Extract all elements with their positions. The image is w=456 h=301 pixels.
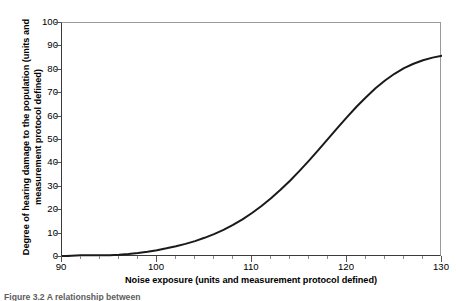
- x-axis-minor-tick-mark: [403, 256, 404, 259]
- y-axis-tick-mark: [55, 139, 61, 140]
- y-axis-tick-label: 20: [30, 204, 58, 214]
- data-curve-svg: [62, 23, 442, 257]
- y-axis-tick-mark: [55, 186, 61, 187]
- y-axis-tick-mark: [55, 209, 61, 210]
- y-axis-tick-label: 40: [30, 157, 58, 167]
- x-axis-title: Noise exposure (units and measurement pr…: [61, 275, 441, 285]
- x-axis-minor-tick-mark: [422, 256, 423, 259]
- x-axis-minor-tick-mark: [270, 256, 271, 259]
- x-axis-minor-tick-mark: [213, 256, 214, 259]
- figure-caption: Figure 3.2 A relationship between: [4, 292, 454, 301]
- series-line-hearing-damage: [62, 56, 442, 257]
- y-axis-tick-label: 80: [30, 64, 58, 74]
- y-axis-tick-labels: 0102030405060708090100: [30, 0, 58, 301]
- y-axis-tick-label: 100: [30, 17, 58, 27]
- y-axis-tick-label: 70: [30, 87, 58, 97]
- x-axis-tick-label: 120: [326, 261, 366, 272]
- y-axis-tick-mark: [55, 45, 61, 46]
- x-axis-minor-tick-mark: [137, 256, 138, 259]
- x-axis-minor-tick-mark: [99, 256, 100, 259]
- x-axis-minor-tick-mark: [365, 256, 366, 259]
- y-axis-tick-mark: [55, 162, 61, 163]
- x-axis-minor-tick-mark: [308, 256, 309, 259]
- x-axis-tick-label: 110: [231, 261, 271, 272]
- x-axis-minor-tick-mark: [194, 256, 195, 259]
- y-axis-tick-label: 10: [30, 228, 58, 238]
- x-axis-minor-tick-mark: [80, 256, 81, 259]
- x-axis-minor-tick-mark: [175, 256, 176, 259]
- x-axis-tick-label: 130: [421, 261, 456, 272]
- figure-container: Degree of hearing damage to the populati…: [0, 0, 456, 301]
- y-axis-tick-label: 90: [30, 40, 58, 50]
- y-axis-tick-label: 60: [30, 111, 58, 121]
- y-axis-tick-label: 50: [30, 134, 58, 144]
- x-axis-tick-label: 90: [41, 261, 81, 272]
- x-axis-minor-tick-mark: [232, 256, 233, 259]
- x-axis-minor-tick-mark: [384, 256, 385, 259]
- y-axis-tick-mark: [55, 116, 61, 117]
- y-axis-tick-mark: [55, 69, 61, 70]
- x-axis-minor-tick-mark: [289, 256, 290, 259]
- plot-area: [61, 22, 441, 256]
- x-axis-minor-tick-mark: [118, 256, 119, 259]
- x-axis-tick-label: 100: [136, 261, 176, 272]
- x-axis-minor-tick-mark: [327, 256, 328, 259]
- y-axis-tick-mark: [55, 22, 61, 23]
- y-axis-tick-mark: [55, 233, 61, 234]
- y-axis-tick-label: 0: [30, 251, 58, 261]
- y-axis-tick-mark: [55, 92, 61, 93]
- y-axis-tick-label: 30: [30, 181, 58, 191]
